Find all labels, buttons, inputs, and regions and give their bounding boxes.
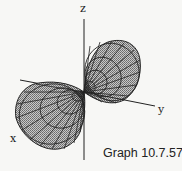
x-axis-label: x bbox=[10, 132, 16, 145]
y-axis-label: y bbox=[158, 103, 164, 116]
z-axis-label: z bbox=[80, 2, 86, 15]
lower-lobe bbox=[12, 76, 91, 151]
surface-plot: z y x Graph 10.7.57 bbox=[0, 0, 182, 171]
figure-caption: Graph 10.7.57 bbox=[103, 146, 182, 160]
